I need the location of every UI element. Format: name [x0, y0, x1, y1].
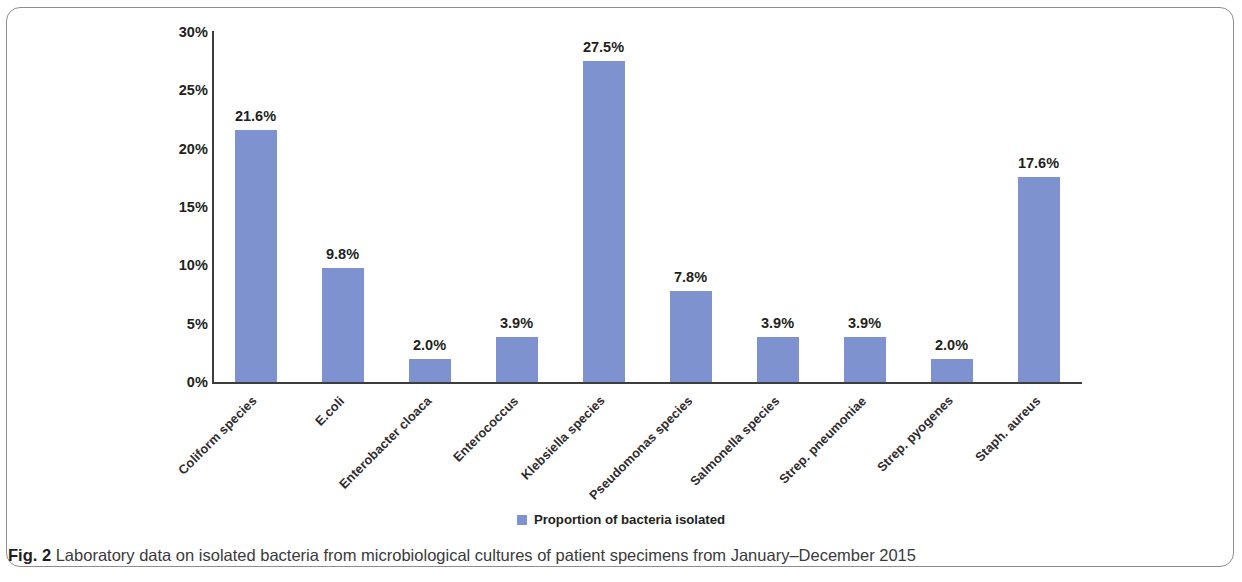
- chart-legend: Proportion of bacteria isolated: [0, 512, 1242, 527]
- bar-value-label: 2.0%: [385, 337, 475, 353]
- bar-value-label: 3.9%: [820, 315, 910, 331]
- figure-caption: Fig. 2 Laboratory data on isolated bacte…: [8, 545, 1234, 566]
- bar: [844, 337, 886, 383]
- bar: [931, 359, 973, 382]
- bar-value-label: 7.8%: [646, 269, 736, 285]
- bar: [757, 337, 799, 383]
- bar: [670, 291, 712, 382]
- bar: [409, 359, 451, 382]
- bar: [496, 337, 538, 383]
- bars-layer: 21.6%9.8%2.0%3.9%27.5%7.8%3.9%3.9%2.0%17…: [0, 0, 1242, 582]
- bar: [235, 130, 277, 382]
- bar-chart-plot-area: 0%5%10%15%20%25%30% 21.6%9.8%2.0%3.9%27.…: [0, 0, 1242, 582]
- bar-value-label: 9.8%: [298, 246, 388, 262]
- legend-entry-label: Proportion of bacteria isolated: [534, 512, 725, 527]
- bar-value-label: 21.6%: [211, 108, 301, 124]
- bar-value-label: 27.5%: [559, 39, 649, 55]
- bar: [583, 61, 625, 382]
- figure-number: Fig. 2: [8, 546, 51, 564]
- bar: [322, 268, 364, 382]
- bar-value-label: 17.6%: [994, 155, 1084, 171]
- bar-value-label: 2.0%: [907, 337, 997, 353]
- bar-value-label: 3.9%: [472, 315, 562, 331]
- figure-caption-text: Laboratory data on isolated bacteria fro…: [56, 546, 916, 564]
- bar-value-label: 3.9%: [733, 315, 823, 331]
- figure-2-root: 0%5%10%15%20%25%30% 21.6%9.8%2.0%3.9%27.…: [0, 0, 1242, 582]
- legend-swatch-icon: [517, 515, 527, 525]
- bar: [1018, 177, 1060, 382]
